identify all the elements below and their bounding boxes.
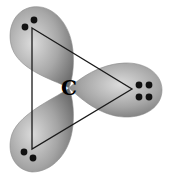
electron-dot [136,94,143,101]
carbon-atom-label: C [61,76,77,100]
electron-dot [136,82,143,89]
electron-dot [31,17,38,24]
electron-dot [22,24,29,31]
electron-dot [146,94,153,101]
electron-dot [30,155,37,162]
lobe-right [69,63,162,117]
electron-dot [146,82,153,89]
sp2-orbital-diagram: C [0,0,169,184]
electron-dot [21,149,28,156]
